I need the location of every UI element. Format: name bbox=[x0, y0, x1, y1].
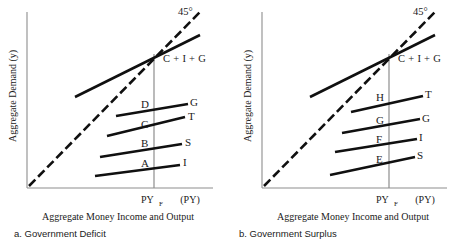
point-label-a: A bbox=[141, 157, 149, 169]
chart-b-svg: 45° C + I + G H G F E T G I S Aggregate … bbox=[225, 0, 451, 248]
curve-label-s-a: S bbox=[185, 136, 191, 148]
aggregate-demand-line-b bbox=[310, 35, 435, 97]
curve-label-g-b: G bbox=[422, 112, 430, 124]
y-axis-label-a: Aggregate Demand (y) bbox=[7, 50, 19, 142]
x-tick-sub-a: F bbox=[159, 200, 163, 208]
x-axis-label-b: Aggregate Money Income and Output bbox=[277, 211, 429, 222]
taxation-line-b bbox=[351, 96, 423, 112]
forty-five-degree-label-a: 45° bbox=[178, 6, 193, 17]
x-tick-sub-b: F bbox=[394, 200, 398, 208]
curve-label-i-b: I bbox=[419, 131, 423, 143]
figure-container: 45° C + I + G D C B A G T S I Aggregate … bbox=[0, 0, 451, 248]
curve-label-t-a: T bbox=[188, 110, 195, 122]
government-spending-line-a bbox=[116, 104, 188, 116]
x-axis-unit-b: (PY) bbox=[415, 194, 434, 206]
chart-a-svg: 45° C + I + G D C B A G T S I Aggregate … bbox=[0, 0, 225, 248]
x-axis-unit-a: (PY) bbox=[180, 194, 199, 206]
point-label-h: H bbox=[376, 91, 384, 103]
point-label-g: G bbox=[376, 114, 384, 126]
aggregate-demand-label-b: C + I + G bbox=[398, 53, 441, 64]
y-axis-label-b: Aggregate Demand (y) bbox=[242, 50, 254, 142]
saving-line-b bbox=[330, 157, 415, 175]
curve-label-i-a: I bbox=[183, 156, 187, 168]
point-label-b: B bbox=[141, 137, 148, 149]
panel-caption-b: b. Government Surplus bbox=[239, 228, 337, 239]
x-tick-label-a: PY bbox=[141, 194, 154, 205]
x-tick-label-b: PY bbox=[376, 194, 389, 205]
forty-five-degree-line-a bbox=[29, 12, 200, 186]
aggregate-demand-line-a bbox=[75, 35, 200, 97]
point-label-d: D bbox=[141, 98, 149, 110]
curve-label-g-a: G bbox=[190, 96, 198, 108]
aggregate-demand-label-a: C + I + G bbox=[163, 53, 206, 64]
panel-government-deficit: 45° C + I + G D C B A G T S I Aggregate … bbox=[0, 0, 225, 248]
panel-caption-a: a. Government Deficit bbox=[14, 228, 106, 239]
point-label-e: E bbox=[376, 153, 383, 165]
point-label-f: F bbox=[376, 133, 382, 145]
curve-label-t-b: T bbox=[425, 88, 432, 100]
forty-five-degree-label-b: 45° bbox=[413, 6, 428, 17]
x-axis-label-a: Aggregate Money Income and Output bbox=[42, 211, 194, 222]
investment-line-a bbox=[95, 165, 180, 176]
point-label-c: C bbox=[141, 118, 148, 130]
panel-government-surplus: 45° C + I + G H G F E T G I S Aggregate … bbox=[225, 0, 451, 248]
curve-label-s-b: S bbox=[417, 149, 423, 161]
